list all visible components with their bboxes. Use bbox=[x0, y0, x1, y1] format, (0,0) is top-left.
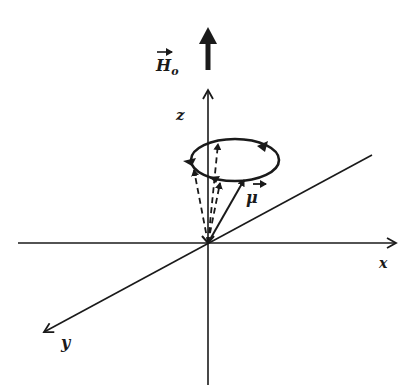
h0-label-subscript: o bbox=[171, 65, 178, 78]
h0-label: Ho bbox=[156, 58, 178, 77]
z-axis-label: z bbox=[176, 108, 185, 123]
rotation-arrow-icon bbox=[183, 158, 196, 166]
mu-label: μ bbox=[246, 190, 258, 206]
field-vector-h0 bbox=[199, 27, 217, 70]
precession-cone bbox=[183, 139, 279, 243]
x-axis-label: x bbox=[379, 256, 387, 270]
y-axis-label: y bbox=[61, 335, 70, 351]
h0-label-main: H bbox=[156, 56, 171, 75]
